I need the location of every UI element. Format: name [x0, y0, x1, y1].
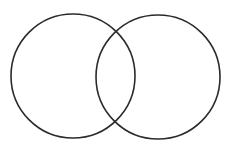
venn-diagram [0, 0, 234, 149]
venn-diagram-canvas [0, 0, 234, 149]
left-set-circle [11, 14, 135, 138]
right-set-circle [96, 15, 220, 139]
